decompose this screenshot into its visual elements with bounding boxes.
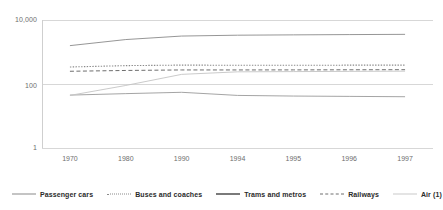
legend-item-label: Railways [348, 191, 379, 198]
chart-container: 10,000 100 1 197019801990199419951996199… [0, 0, 443, 210]
legend-swatch-icon [216, 191, 240, 197]
legend-item-air-1[interactable]: Air (1) [393, 191, 442, 198]
legend-item-trams-and-metros[interactable]: Trams and metros [216, 191, 306, 198]
legend-swatch-icon [393, 191, 417, 197]
series-line-buses-and-coaches [70, 65, 405, 67]
legend-swatch-icon [320, 191, 344, 197]
x-axis-tick-label-1990: 1990 [162, 155, 202, 162]
series-line-trams-and-metros [70, 92, 405, 96]
x-axis-tick-label-1970: 1970 [50, 155, 90, 162]
legend-swatch-icon [12, 191, 36, 197]
x-axis-tick-label-1994: 1994 [218, 155, 258, 162]
x-axis-tick-label-1980: 1980 [106, 155, 146, 162]
series-line-passenger-cars [70, 34, 405, 45]
legend-item-railways[interactable]: Railways [320, 191, 379, 198]
chart-svg [0, 0, 443, 170]
legend-item-label: Air (1) [421, 191, 442, 198]
series-lines [70, 34, 405, 96]
y-axis-tick-label-1: 1 [7, 144, 37, 151]
legend-swatch-icon [107, 191, 131, 197]
legend-item-passenger-cars[interactable]: Passenger cars [12, 191, 93, 198]
chart-legend: Passenger carsBuses and coachesTrams and… [0, 183, 443, 205]
legend-item-label: Trams and metros [244, 191, 306, 198]
plot-area: 10,000 100 1 197019801990199419951996199… [0, 0, 443, 170]
x-axis-tick-label-1996: 1996 [329, 155, 369, 162]
legend-item-buses-and-coaches[interactable]: Buses and coaches [107, 191, 202, 198]
y-axis-tick-label-10000: 10,000 [7, 16, 37, 23]
legend-item-label: Buses and coaches [135, 191, 202, 198]
legend-item-label: Passenger cars [40, 191, 93, 198]
x-axis-tick-label-1995: 1995 [273, 155, 313, 162]
gridlines [42, 21, 433, 149]
x-axis-tick-label-1997: 1997 [385, 155, 425, 162]
y-axis-tick-label-100: 100 [7, 82, 37, 89]
series-line-air-1 [70, 71, 405, 95]
